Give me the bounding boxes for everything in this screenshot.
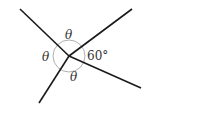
label-theta-bottom: θ bbox=[70, 70, 78, 84]
label-theta-top: θ bbox=[65, 28, 73, 42]
label-60-degrees: 60° bbox=[87, 49, 108, 63]
ray-upper-left bbox=[20, 9, 69, 56]
label-theta-left: θ bbox=[42, 50, 50, 64]
angle-diagram: θ θ θ 60° bbox=[0, 0, 199, 116]
